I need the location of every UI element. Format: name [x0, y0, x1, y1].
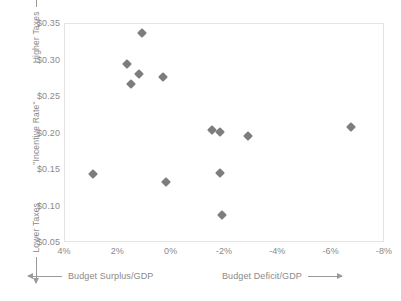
- x-axis-ticks: 4%2%0%-2%-4%-6%-8%: [0, 246, 401, 260]
- y-tick-label: $0.35: [22, 18, 60, 28]
- data-point: [126, 79, 136, 89]
- x-axis-left-arrow: [28, 276, 62, 277]
- x-tick-label: 4%: [57, 246, 70, 256]
- data-point: [207, 125, 217, 135]
- data-point: [346, 122, 356, 132]
- x-tick-label: -8%: [376, 246, 392, 256]
- x-tick-label: -6%: [323, 246, 339, 256]
- x-axis-label-surplus: Budget Surplus/GDP: [28, 268, 153, 284]
- data-point: [215, 168, 225, 178]
- x-tick-label: 2%: [111, 246, 124, 256]
- plot-area: [64, 23, 384, 242]
- y-tick-label: $0.25: [22, 91, 60, 101]
- y-tick-label: $0.20: [22, 128, 60, 138]
- x-axis-label-deficit: Budget Deficit/GDP: [222, 268, 342, 284]
- data-point: [161, 177, 171, 187]
- data-point: [88, 169, 98, 179]
- y-tick-label: $0.30: [22, 55, 60, 65]
- x-tick-label: -4%: [269, 246, 285, 256]
- data-point: [134, 69, 144, 79]
- data-point: [243, 131, 253, 141]
- y-tick-label: $0.15: [22, 164, 60, 174]
- data-point: [158, 72, 168, 82]
- data-point: [137, 28, 147, 38]
- x-axis-right-arrow: [308, 276, 342, 277]
- scatter-chart: Lower Taxes "Incentive Rate" Higher Taxe…: [0, 0, 401, 301]
- x-tick-label: 0%: [164, 246, 177, 256]
- x-axis-label-surplus-text: Budget Surplus/GDP: [68, 271, 153, 281]
- x-axis-label-deficit-text: Budget Deficit/GDP: [222, 271, 302, 281]
- x-tick-label: -2%: [216, 246, 232, 256]
- data-point: [122, 59, 132, 69]
- y-tick-label: $0.10: [22, 201, 60, 211]
- data-point: [217, 210, 227, 220]
